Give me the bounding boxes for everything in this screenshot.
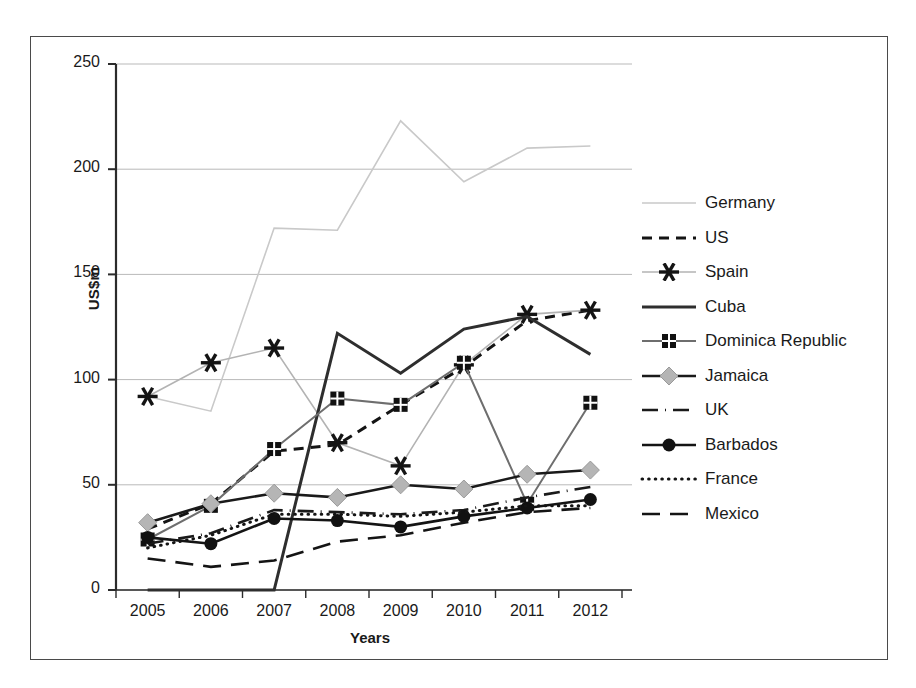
y-tick-label-0: 0 bbox=[48, 579, 100, 597]
marker-spain-2008 bbox=[327, 434, 347, 451]
legend-label-us: US bbox=[705, 228, 729, 248]
marker-jamaica-2005 bbox=[139, 514, 157, 532]
legend-label-uk: UK bbox=[705, 400, 729, 420]
series-jamaica bbox=[139, 461, 600, 532]
marker-barbados-2012 bbox=[584, 493, 597, 506]
y-axis-title: US$m bbox=[85, 229, 102, 349]
x-tick-label-2006: 2006 bbox=[176, 602, 246, 620]
legend-label-barbados: Barbados bbox=[705, 435, 778, 455]
x-tick-label-2007: 2007 bbox=[239, 602, 309, 620]
marker-jamaica-2009 bbox=[392, 476, 410, 494]
marker-barbados-2009 bbox=[394, 520, 407, 533]
figure-container: US$m Years 050100150200250 2005200620072… bbox=[0, 0, 916, 688]
marker-jamaica-2007 bbox=[265, 484, 283, 502]
legend-marker-jamaica bbox=[660, 367, 678, 385]
legend-item-dominica-republic[interactable]: Dominica Republic bbox=[640, 324, 847, 359]
marker-barbados-2006 bbox=[204, 537, 217, 550]
line-swatch-germany-icon bbox=[640, 194, 698, 212]
x-tick-label-2012: 2012 bbox=[555, 602, 625, 620]
y-tick-label-150: 150 bbox=[48, 263, 100, 281]
legend-item-us[interactable]: US bbox=[640, 221, 847, 256]
legend-item-spain[interactable]: Spain bbox=[640, 255, 847, 290]
line-swatch-jamaica-icon bbox=[640, 367, 698, 385]
line-swatch-barbados-icon bbox=[640, 436, 698, 454]
y-tick-label-250: 250 bbox=[48, 53, 100, 71]
marker-jamaica-2008 bbox=[328, 488, 346, 506]
legend-label-dominica-republic: Dominica Republic bbox=[705, 331, 847, 351]
line-swatch-mexico-icon bbox=[640, 505, 698, 523]
marker-spain-2012 bbox=[580, 302, 600, 319]
line-swatch-dominica-icon bbox=[640, 332, 698, 350]
marker-jamaica-2012 bbox=[581, 461, 599, 479]
x-tick-label-2008: 2008 bbox=[302, 602, 372, 620]
x-tick-label-2010: 2010 bbox=[429, 602, 499, 620]
gridlines-group bbox=[116, 64, 632, 590]
legend-label-germany: Germany bbox=[705, 193, 775, 213]
x-tick-label-2005: 2005 bbox=[113, 602, 183, 620]
marker-jamaica-2010 bbox=[455, 480, 473, 498]
line-swatch-spain-icon bbox=[640, 263, 698, 281]
series-line-mexico bbox=[148, 508, 591, 567]
legend-label-spain: Spain bbox=[705, 262, 748, 282]
series-line-spain bbox=[148, 310, 591, 466]
marker-spain-2006 bbox=[201, 354, 221, 371]
legend-marker-spain bbox=[659, 264, 679, 281]
series-dominica-republic bbox=[141, 356, 598, 547]
line-swatch-cuba-icon bbox=[640, 298, 698, 316]
marker-barbados-2005 bbox=[141, 531, 154, 544]
x-tick-label-2011: 2011 bbox=[492, 602, 562, 620]
legend-item-cuba[interactable]: Cuba bbox=[640, 290, 847, 325]
line-swatch-us-icon bbox=[640, 229, 698, 247]
y-tick-label-50: 50 bbox=[48, 474, 100, 492]
y-tick-label-200: 200 bbox=[48, 158, 100, 176]
legend-item-jamaica[interactable]: Jamaica bbox=[640, 359, 847, 394]
legend-item-uk[interactable]: UK bbox=[640, 393, 847, 428]
legend-item-mexico[interactable]: Mexico bbox=[640, 497, 847, 532]
x-tick-label-2009: 2009 bbox=[366, 602, 436, 620]
legend-item-barbados[interactable]: Barbados bbox=[640, 428, 847, 463]
line-swatch-uk-icon bbox=[640, 401, 698, 419]
marker-spain-2009 bbox=[391, 457, 411, 474]
marker-spain-2007 bbox=[264, 339, 284, 356]
legend-item-france[interactable]: France bbox=[640, 462, 847, 497]
marker-barbados-2008 bbox=[331, 514, 344, 527]
x-axis-title: Years bbox=[110, 629, 630, 646]
marker-jamaica-2011 bbox=[518, 465, 536, 483]
y-tick-label-100: 100 bbox=[48, 369, 100, 387]
legend-label-jamaica: Jamaica bbox=[705, 366, 768, 386]
legend-label-mexico: Mexico bbox=[705, 504, 759, 524]
legend-label-france: France bbox=[705, 469, 758, 489]
marker-spain-2005 bbox=[138, 388, 158, 405]
chart-legend: GermanyUSSpainCubaDominica RepublicJamai… bbox=[640, 186, 847, 531]
legend-marker-barbados bbox=[663, 438, 676, 451]
line-swatch-france-icon bbox=[640, 470, 698, 488]
series-mexico bbox=[148, 508, 591, 567]
legend-item-germany[interactable]: Germany bbox=[640, 186, 847, 221]
legend-label-cuba: Cuba bbox=[705, 297, 746, 317]
series-spain bbox=[138, 302, 601, 475]
